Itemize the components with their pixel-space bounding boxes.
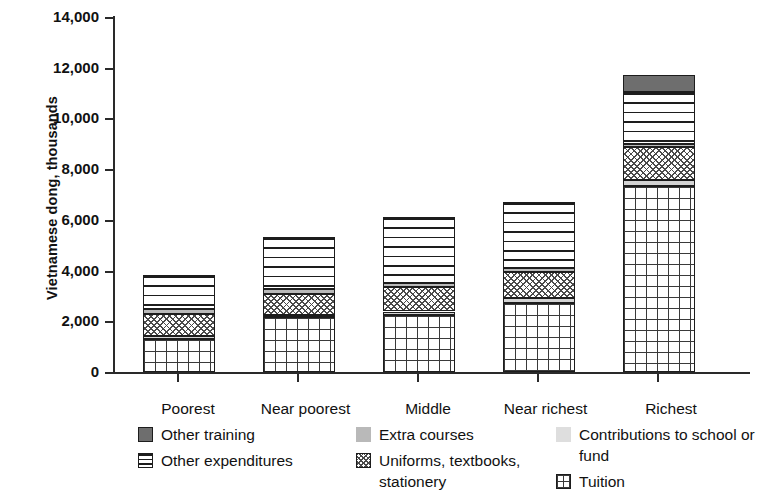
y-tick-14000: 14,000 (105, 17, 113, 19)
bar-segment-tuition (623, 186, 695, 372)
solid-light-gray-square-icon (556, 427, 571, 442)
bar-segment-other-expenditures (383, 217, 455, 283)
bar-segment-tuition (503, 303, 575, 372)
legend-label: Tuition (579, 471, 625, 492)
bar-segment-tuition (263, 317, 335, 372)
legend-label: Contributions to school or fund (579, 424, 756, 466)
bar-richest (623, 75, 695, 373)
y-tick-10000: 10,000 (105, 118, 113, 120)
bar-segment-uniforms (503, 272, 575, 297)
bar-segment-other-expenditures (263, 237, 335, 289)
grid-square-icon (556, 474, 571, 489)
horizontal-lines-square-icon (138, 453, 153, 468)
y-tick-label: 6,000 (61, 210, 99, 230)
y-tick-8000: 8,000 (105, 169, 113, 171)
y-tick-label: 0 (91, 362, 99, 382)
bar-segment-contributions (383, 312, 455, 315)
y-tick-label: 8,000 (61, 159, 99, 179)
bar-segment-other-expenditures (503, 202, 575, 268)
y-tick-label: 12,000 (53, 58, 99, 78)
checkered-square-icon (356, 453, 371, 468)
legend-label: Other training (161, 424, 255, 445)
bar-segment-uniforms (623, 147, 695, 180)
legend-label: Other expenditures (161, 450, 293, 471)
x-tick (177, 374, 179, 382)
legend-column-3: Contributions to school or fund Tuition (556, 424, 756, 497)
bar-segment-other-expenditures (143, 275, 215, 308)
bar-segment-tuition (383, 315, 455, 372)
solid-medium-gray-square-icon (356, 427, 371, 442)
y-tick-label: 2,000 (61, 311, 99, 331)
y-axis-title: Vietnamese dong, thousands (44, 48, 60, 348)
bar-segment-extra-courses (143, 309, 215, 314)
legend-column-2: Extra courses Uniforms, textbooks, stati… (356, 424, 571, 497)
x-axis-label-richest: Richest (591, 400, 751, 418)
bar-segment-extra-courses (383, 283, 455, 288)
y-tick-4000: 4,000 (105, 271, 113, 273)
bar-segment-uniforms (143, 314, 215, 336)
bar-segment-other-training (623, 75, 695, 93)
bar-near-richest (503, 202, 575, 372)
bar-segment-extra-courses (623, 144, 695, 147)
y-tick-12000: 12,000 (105, 68, 113, 70)
legend-item-extra-courses: Extra courses (356, 424, 571, 445)
bar-segment-other-expenditures (623, 92, 695, 143)
y-tick-2000: 2,000 (105, 321, 113, 323)
stacked-bar-chart: Vietnamese dong, thousands 14,000 12,000… (0, 0, 758, 500)
y-tick-0: 0 (105, 372, 113, 374)
x-tick (657, 374, 659, 382)
y-tick-label: 10,000 (53, 108, 99, 128)
bar-segment-contributions (623, 180, 695, 186)
bar-segment-contributions (143, 336, 215, 339)
bar-poorest (143, 275, 215, 372)
legend-item-tuition: Tuition (556, 471, 756, 492)
plot-area: 14,000 12,000 10,000 8,000 6,000 4,000 2… (113, 16, 750, 374)
solid-dark-gray-square-icon (138, 427, 153, 442)
bar-segment-contributions (263, 315, 335, 318)
legend-column-1: Other training Other expenditures (138, 424, 363, 476)
bar-middle (383, 217, 455, 372)
bar-segment-contributions (503, 298, 575, 303)
y-tick-label: 14,000 (53, 7, 99, 27)
x-tick (297, 374, 299, 382)
bar-near-poorest (263, 237, 335, 372)
y-tick-label: 4,000 (61, 261, 99, 281)
x-tick (417, 374, 419, 382)
bar-segment-extra-courses (263, 289, 335, 294)
bar-segment-uniforms (383, 287, 455, 311)
legend-item-other-expenditures: Other expenditures (138, 450, 363, 471)
y-axis-line (113, 16, 115, 374)
legend-item-other-training: Other training (138, 424, 363, 445)
legend-label: Uniforms, textbooks, stationery (379, 450, 571, 492)
y-tick-6000: 6,000 (105, 220, 113, 222)
bar-segment-tuition (143, 339, 215, 372)
bar-segment-extra-courses (503, 268, 575, 273)
chart-legend: Other training Other expenditures Extra … (138, 424, 753, 496)
legend-item-contributions: Contributions to school or fund (556, 424, 756, 466)
x-axis-line (113, 372, 750, 374)
legend-item-uniforms: Uniforms, textbooks, stationery (356, 450, 571, 492)
legend-label: Extra courses (379, 424, 474, 445)
bar-segment-uniforms (263, 294, 335, 314)
x-tick (537, 374, 539, 382)
